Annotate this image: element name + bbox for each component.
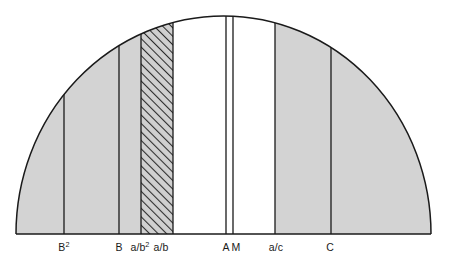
region-ab-to-A-unshaded [173, 10, 226, 234]
region-hatched-band [141, 10, 173, 234]
region-ac-to-C-shaded [275, 10, 331, 234]
region-C-to-right-shaded [331, 10, 431, 234]
region-left-outer-shaded [16, 10, 64, 234]
region-group [16, 10, 431, 234]
semicircle-partition-figure: B2 B a/b2 a/b A M a/c C [0, 0, 476, 267]
figure-canvas [0, 0, 476, 267]
region-B2-to-B-shaded [64, 10, 119, 234]
region-A-to-M-unshaded [226, 10, 233, 234]
region-M-to-ac-unshaded [233, 10, 275, 234]
